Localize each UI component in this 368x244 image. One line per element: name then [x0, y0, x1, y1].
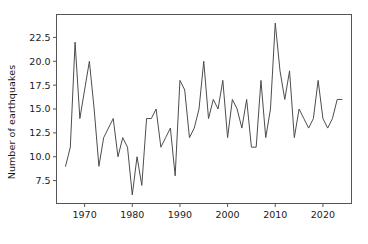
x-tick-label: 1970 [73, 209, 97, 220]
y-tick-label: 10.0 [29, 151, 50, 162]
y-tick-label: 17.5 [29, 80, 50, 91]
x-tick-label: 1990 [168, 209, 192, 220]
x-axis-ticks: 197019801990200020102020 [73, 204, 335, 220]
x-tick-label: 2020 [311, 209, 335, 220]
y-tick-label: 22.5 [29, 32, 50, 43]
chart-figure: Number of earthquakes 7.510.012.515.017.… [0, 0, 368, 244]
y-axis-ticks: 7.510.012.515.017.520.022.5 [29, 32, 56, 186]
line-chart-svg: 7.510.012.515.017.520.022.5 197019801990… [0, 0, 368, 244]
y-tick-label: 15.0 [29, 103, 50, 114]
x-tick-label: 1980 [120, 209, 144, 220]
y-tick-label: 12.5 [29, 127, 50, 138]
y-tick-label: 7.5 [35, 175, 50, 186]
x-tick-label: 2000 [215, 209, 239, 220]
plot-background [57, 15, 352, 204]
plot-area-wrapper: 7.510.012.515.017.520.022.5 197019801990… [0, 0, 368, 244]
x-tick-label: 2010 [263, 209, 287, 220]
y-tick-label: 20.0 [29, 56, 50, 67]
